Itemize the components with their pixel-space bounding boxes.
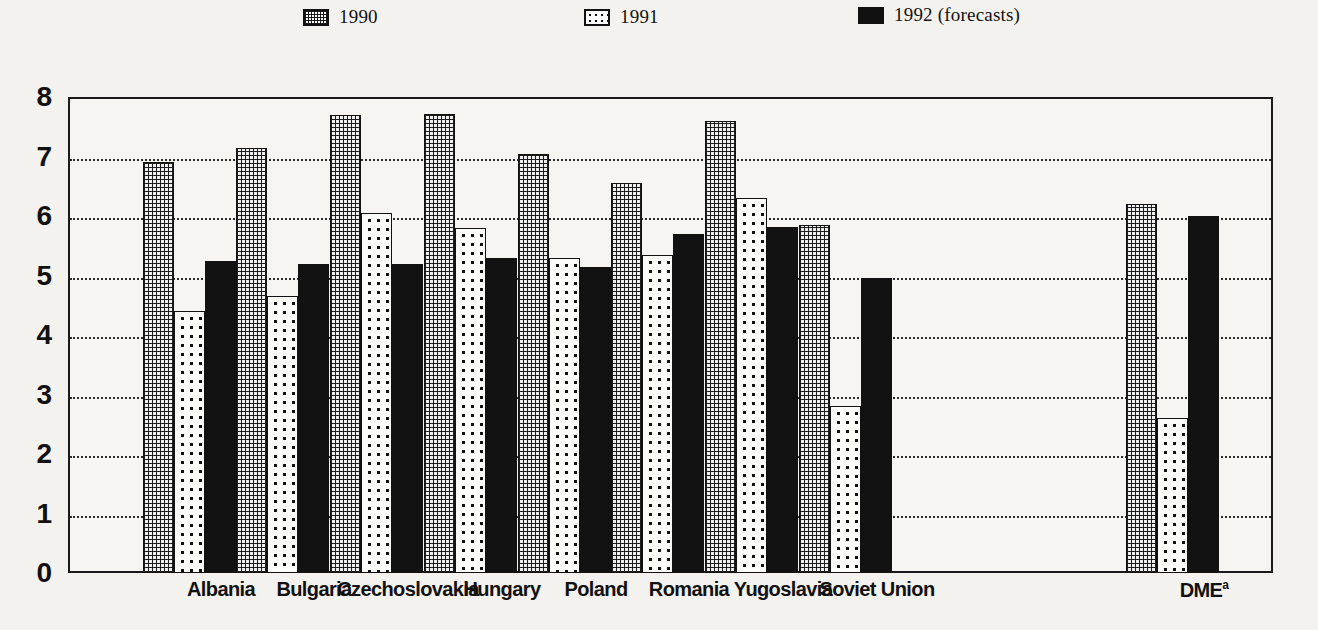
bar-hungary-1991 [455, 228, 486, 573]
x-axis-label-text: Albania [187, 578, 255, 600]
y-axis-tick-1: 1 [36, 500, 52, 528]
bar-poland-1992 [580, 267, 611, 573]
bar-albania-1992 [205, 261, 236, 573]
legend-item-1992: 1992 (forecasts) [858, 4, 1020, 26]
x-axis-label-text: Romania [649, 578, 729, 600]
y-axis: 012345678 [0, 97, 64, 573]
bar-soviet-union-1990 [799, 225, 830, 573]
x-axis-label-soviet-union: Soviet Union [819, 578, 934, 601]
x-axis-label-romania: Romania [649, 578, 729, 601]
bar-romania-1990 [611, 183, 642, 573]
bar-yugoslavia-1991 [736, 198, 767, 573]
bar-dme-1990 [1126, 204, 1157, 573]
bar-romania-1991 [642, 255, 673, 573]
y-axis-tick-5: 5 [36, 262, 52, 290]
bar-bulgaria-1991 [267, 296, 298, 573]
x-axis-label-text: Poland [564, 578, 627, 600]
chart-legend: 199019911992 (forecasts) [0, 0, 1318, 40]
bar-yugoslavia-1992 [767, 227, 798, 573]
bar-poland-1990 [518, 154, 549, 573]
bar-series-container [68, 97, 1273, 573]
bar-soviet-union-1992 [861, 278, 892, 573]
sparse-dot-swatch [584, 9, 610, 26]
x-axis-label-text: Hungary [464, 578, 541, 600]
x-axis-label-dme: DMEa [1180, 578, 1229, 602]
footnote-marker: a [1222, 578, 1228, 592]
x-axis-label-yugoslavia: Yugoslavia [734, 578, 833, 601]
bar-albania-1990 [143, 162, 174, 573]
legend-item-1990: 1990 [303, 6, 378, 28]
bar-yugoslavia-1990 [705, 121, 736, 573]
y-axis-tick-7: 7 [36, 143, 52, 171]
x-axis-label-albania: Albania [187, 578, 255, 601]
bar-czechoslovakia-1991 [361, 213, 392, 573]
x-axis-label-hungary: Hungary [464, 578, 541, 601]
bar-czechoslovakia-1990 [330, 115, 361, 573]
x-axis-label-text: Czechoslovakia [337, 578, 479, 600]
x-axis-label-text: DME [1180, 579, 1223, 601]
y-axis-tick-2: 2 [36, 440, 52, 468]
x-axis-label-text: Soviet Union [819, 578, 934, 600]
bar-hungary-1990 [424, 114, 455, 573]
solid-black-swatch [858, 7, 884, 24]
x-axis-labels: AlbaniaBulgariaCzechoslovakiaHungaryPola… [0, 578, 1318, 618]
bar-czechoslovakia-1992 [392, 264, 423, 573]
bar-bulgaria-1992 [298, 264, 329, 573]
y-axis-tick-3: 3 [36, 381, 52, 409]
legend-item-1991: 1991 [584, 6, 659, 28]
bar-romania-1992 [673, 234, 704, 573]
bar-dme-1991 [1157, 418, 1188, 573]
dense-grid-hatch-swatch [303, 9, 329, 26]
legend-label: 1992 (forecasts) [894, 4, 1020, 26]
x-axis-label-text: Yugoslavia [734, 578, 833, 600]
bar-soviet-union-1991 [830, 406, 861, 573]
y-axis-tick-4: 4 [36, 321, 52, 349]
x-axis-label-czechoslovakia: Czechoslovakia [337, 578, 479, 601]
bar-poland-1991 [549, 258, 580, 573]
bar-bulgaria-1990 [236, 148, 267, 573]
bar-hungary-1992 [486, 258, 517, 573]
bar-albania-1991 [174, 311, 205, 573]
y-axis-tick-8: 8 [36, 83, 52, 111]
legend-label: 1991 [620, 6, 659, 28]
y-axis-tick-6: 6 [36, 202, 52, 230]
bar-dme-1992 [1188, 216, 1219, 573]
x-axis-label-poland: Poland [564, 578, 627, 601]
legend-label: 1990 [339, 6, 378, 28]
